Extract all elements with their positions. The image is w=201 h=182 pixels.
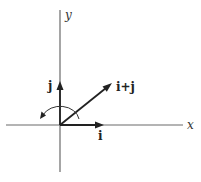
vector-i-plus-j-label: i+j	[116, 80, 135, 94]
x-axis-label: x	[187, 118, 194, 132]
vector-i-plus-j	[60, 88, 106, 125]
rotation-arc	[43, 106, 79, 119]
vector-j-arrowhead	[57, 81, 64, 90]
vector-i-arrowhead	[95, 122, 104, 129]
vector-i-label: i	[98, 129, 103, 143]
vector-diagram: x y i j i+j	[0, 0, 201, 182]
y-axis-label: y	[64, 8, 72, 22]
vector-j-label: j	[47, 79, 52, 93]
